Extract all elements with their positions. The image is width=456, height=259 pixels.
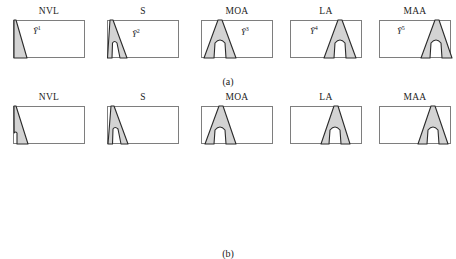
panel-b-la: LA (290, 106, 362, 144)
panel-b-nvl: NVL (13, 106, 85, 144)
panel-frame (13, 106, 85, 144)
panel-frame (379, 20, 451, 58)
panel-title: S (107, 5, 179, 17)
panel-a-la: LA Ỹ4 (290, 20, 362, 58)
panel-frame (201, 20, 273, 58)
panel-title: NVL (13, 91, 85, 103)
y-superscript: 5 (402, 25, 405, 31)
panel-frame (201, 106, 273, 144)
panel-title: MAA (379, 5, 451, 17)
panel-title: MOA (201, 91, 273, 103)
panel-y-label: Ỹ4 (310, 24, 318, 36)
panel-frame (290, 106, 362, 144)
panel-b-s: S (107, 106, 179, 144)
panel-y-label: Ỹ5 (397, 24, 405, 36)
figure-row-a: NVL Ỹ1 S Ỹ2 MOA Ỹ3 LA (0, 6, 456, 76)
figure-row-b: NVL S MOA LA (0, 92, 456, 162)
panel-a-nvl: NVL Ỹ1 (13, 20, 85, 58)
panel-title: S (107, 91, 179, 103)
panel-title: NVL (13, 5, 85, 17)
panel-y-label: Ỹ2 (132, 27, 140, 39)
panel-frame (107, 106, 179, 144)
panel-title: MAA (379, 91, 451, 103)
panel-a-s: S Ỹ2 (107, 20, 179, 58)
panel-frame (290, 20, 362, 58)
panel-a-maa: MAA Ỹ5 (379, 20, 451, 58)
panel-b-maa: MAA (379, 106, 451, 144)
panel-b-moa: MOA (201, 106, 273, 144)
y-superscript: 3 (246, 26, 249, 32)
y-superscript: 4 (315, 25, 318, 31)
y-superscript: 1 (38, 25, 41, 31)
panel-title: MOA (201, 5, 273, 17)
panel-y-label: Ỹ3 (241, 25, 249, 37)
panel-frame (107, 20, 179, 58)
caption-a: (a) (0, 76, 456, 87)
panel-a-moa: MOA Ỹ3 (201, 20, 273, 58)
panel-y-label: Ỹ1 (33, 24, 41, 36)
panel-title: LA (290, 5, 362, 17)
panel-frame (379, 106, 451, 144)
y-superscript: 2 (137, 28, 140, 34)
panel-title: LA (290, 91, 362, 103)
caption-b: (b) (0, 248, 456, 259)
panel-frame (13, 20, 85, 58)
